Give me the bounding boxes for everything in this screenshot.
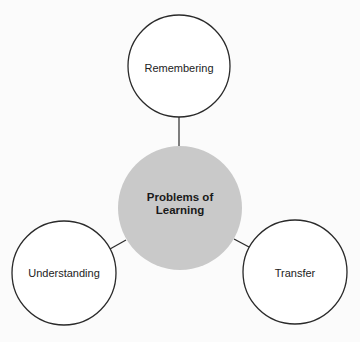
node-transfer-label: Transfer <box>275 267 316 280</box>
connector-understanding <box>110 240 126 249</box>
diagram-canvas <box>0 0 360 342</box>
node-remembering-label: Remembering <box>144 62 213 75</box>
center-node-label: Problems of Learning <box>135 191 225 217</box>
connector-transfer <box>234 239 249 247</box>
node-understanding-label: Understanding <box>28 267 100 280</box>
